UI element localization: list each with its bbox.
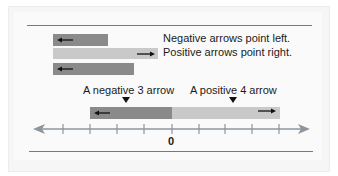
pointer-triangle-icon — [122, 97, 130, 103]
right-arrow-icon — [137, 52, 155, 57]
left-arrow-icon — [57, 38, 73, 43]
diagram-graphics — [0, 0, 338, 176]
pointer-triangle-icon — [229, 97, 237, 103]
left-arrow-icon — [57, 67, 73, 72]
right-arrow-icon — [258, 109, 276, 114]
number-line — [33, 124, 310, 134]
left-arrow-icon — [94, 111, 110, 116]
